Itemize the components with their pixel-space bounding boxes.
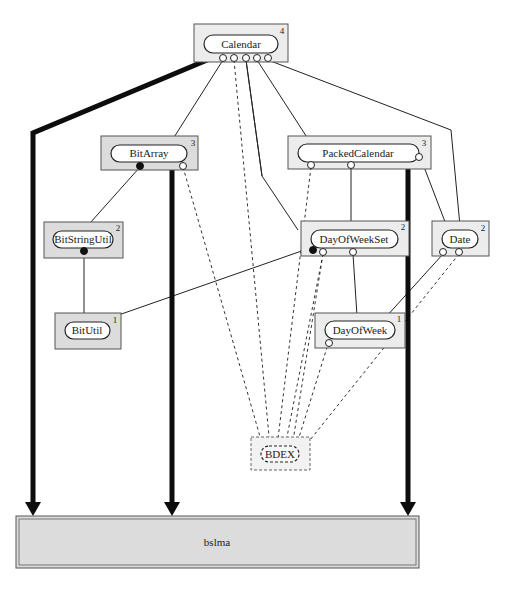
edge-dayofweekset-bdex — [285, 254, 323, 447]
component-label: Date — [450, 233, 471, 245]
level-number: 2 — [116, 223, 121, 233]
level-number: 3 — [422, 138, 427, 148]
component-label: DayOfWeek — [333, 324, 388, 336]
component-dayofweek[interactable]: DayOfWeek 1 — [315, 313, 405, 348]
edge-bitarray-bdex — [183, 167, 263, 447]
edge-dayofweekset-dayofweek — [353, 254, 357, 316]
component-packedcalendar[interactable]: PackedCalendar 3 — [288, 136, 431, 169]
edge-date-dayofweek — [385, 254, 443, 318]
edge-date-bdex — [302, 254, 459, 450]
level-number: 1 — [397, 314, 402, 324]
arrowhead-calendar-bslma — [25, 502, 41, 516]
edge-dayofweekset-bitutil — [110, 247, 313, 318]
component-label: BDEX — [265, 448, 295, 460]
component-date[interactable]: Date 2 — [432, 221, 489, 256]
component-bitarray[interactable]: BitArray 3 — [101, 136, 198, 170]
component-label: PackedCalendar — [322, 147, 394, 159]
arrowhead-bitarray-bslma — [164, 502, 180, 516]
component-bdex[interactable]: BDEX — [251, 437, 310, 470]
port-open — [440, 249, 447, 256]
component-label: bslma — [204, 536, 230, 548]
port-filled — [81, 248, 88, 255]
edges — [25, 58, 460, 516]
level-number: 1 — [113, 315, 118, 325]
component-bslma[interactable]: bslma — [16, 516, 419, 568]
component-dayofweekset[interactable]: DayOfWeekSet 2 — [301, 221, 409, 256]
port-open — [350, 249, 357, 256]
edge-packedcalendar-bdex — [277, 167, 311, 447]
component-label: BitArray — [129, 147, 169, 159]
edge-calendar-bdex — [234, 60, 270, 447]
edge-dayofweek-bdex — [296, 341, 329, 447]
port-filled — [137, 163, 144, 170]
port-open — [326, 340, 333, 347]
level-number: 4 — [280, 26, 285, 36]
component-label: Calendar — [221, 38, 261, 50]
port-open — [180, 163, 187, 170]
port-filled — [310, 247, 317, 254]
component-bitstringutil[interactable]: BitStringUtil 2 — [44, 222, 123, 258]
level-number: 2 — [481, 223, 486, 233]
edge-calendar-bslma — [33, 58, 212, 503]
port-open — [456, 249, 463, 256]
level-number: 2 — [401, 222, 406, 232]
dependency-diagram: Calendar 4 BitArray 3 PackedCalendar 3 — [0, 0, 507, 589]
component-calendar[interactable]: Calendar 4 — [194, 24, 288, 62]
edge-calendar-packedcalendar — [257, 60, 310, 142]
component-label: DayOfWeekSet — [320, 233, 389, 245]
arrowhead-packedcalendar-bslma — [400, 502, 416, 516]
port-open — [320, 249, 327, 256]
level-number: 3 — [191, 138, 196, 148]
component-bitutil[interactable]: BitUtil 1 — [55, 313, 121, 349]
component-label: BitStringUtil — [54, 233, 111, 245]
component-label: BitUtil — [72, 324, 103, 336]
